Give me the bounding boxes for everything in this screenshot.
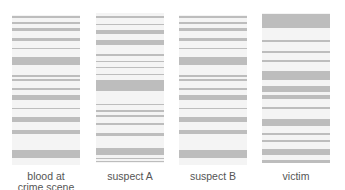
dna-band (262, 60, 330, 62)
lane-label-line: victim (251, 171, 341, 182)
dna-band (12, 150, 80, 158)
dna-band (96, 80, 164, 91)
lane-label-line: crime scene (1, 182, 91, 190)
dna-band (96, 148, 164, 155)
dna-band (179, 16, 247, 18)
dna-band (12, 38, 80, 41)
dna-band (96, 133, 164, 136)
lane-label-line: suspect A (85, 171, 175, 182)
dna-band (262, 133, 330, 135)
dna-band (96, 115, 164, 117)
gel-lane-suspect-a (96, 13, 164, 163)
dna-band (12, 117, 80, 122)
gel-lane-suspect-b (179, 15, 247, 165)
dna-band (96, 61, 164, 62)
dna-band (12, 16, 80, 18)
dna-band (12, 95, 80, 100)
dna-band (179, 48, 247, 49)
lane-label-line: suspect B (168, 171, 258, 182)
dna-band (96, 158, 164, 159)
dna-band (96, 40, 164, 45)
dna-band (12, 48, 80, 49)
lane-label-suspect-b: suspect B (168, 171, 258, 182)
dna-band (179, 95, 247, 100)
gel-lane-crime-scene (12, 15, 80, 165)
dna-band (96, 16, 164, 18)
dna-band (262, 149, 330, 155)
dna-band (96, 30, 164, 34)
dna-band (96, 104, 164, 105)
dna-band (179, 88, 247, 90)
dna-band (262, 107, 330, 109)
dna-band (96, 110, 164, 112)
dna-band (179, 22, 247, 24)
dna-band (179, 108, 247, 109)
dna-band (262, 40, 330, 42)
dna-band (179, 75, 247, 77)
dna-band (179, 150, 247, 158)
dna-band (179, 79, 247, 81)
dna-band (96, 67, 164, 68)
dna-band (262, 95, 330, 99)
dna-band (262, 71, 330, 80)
dna-band (12, 22, 80, 24)
gel-lane-victim (262, 13, 330, 163)
lane-label-crime-scene: blood at crime scene (1, 171, 91, 190)
dna-band (12, 88, 80, 90)
dna-band (12, 28, 80, 31)
dna-band (96, 54, 164, 56)
dna-band (96, 24, 164, 25)
dna-band (12, 130, 80, 134)
dna-band (12, 57, 80, 65)
dna-band (12, 108, 80, 109)
dna-band (179, 38, 247, 41)
dna-band (262, 160, 330, 163)
dna-band (179, 117, 247, 122)
dna-band (262, 140, 330, 142)
dna-band (179, 28, 247, 31)
dna-band (12, 75, 80, 77)
dna-band (179, 130, 247, 134)
lane-label-suspect-a: suspect A (85, 171, 175, 182)
dna-band (179, 57, 247, 65)
dna-band (262, 51, 330, 53)
lane-label-victim: victim (251, 171, 341, 182)
dna-band (96, 161, 164, 162)
dna-band (262, 86, 330, 92)
dna-band (262, 14, 330, 28)
dna-band (12, 79, 80, 81)
dna-band (96, 123, 164, 125)
dna-band (96, 74, 164, 75)
dna-band (262, 119, 330, 126)
